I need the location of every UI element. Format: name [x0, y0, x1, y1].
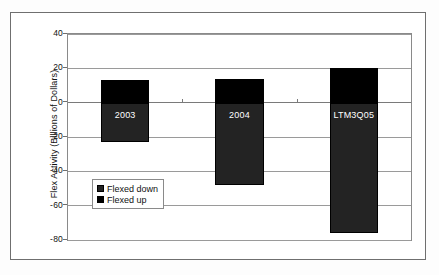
y-tick-mark	[63, 136, 67, 137]
legend-item: Flexed up	[97, 194, 158, 205]
legend-swatch-icon	[97, 196, 104, 203]
bar-segment-flexed-up	[101, 80, 149, 102]
y-axis-tick-labels: 40200-20-40-60-80	[25, 33, 63, 241]
y-tick-mark	[63, 204, 67, 205]
y-tick-label: 20	[29, 63, 63, 71]
plot-area: 20032004LTM3Q05 Flexed downFlexed up	[67, 33, 412, 241]
y-tick-label: -40	[29, 166, 63, 174]
y-tick-mark	[63, 170, 67, 171]
bar-group: LTM3Q05	[330, 34, 378, 240]
bar-group: 2004	[215, 34, 263, 240]
legend-item: Flexed down	[97, 183, 158, 194]
y-tick-mark	[63, 101, 67, 102]
chart-figure: Flex Activity (Billions of Dollars) 4020…	[0, 0, 439, 275]
chart-legend: Flexed downFlexed up	[92, 179, 164, 209]
y-tick-label: -20	[29, 132, 63, 140]
y-tick-mark	[63, 33, 67, 34]
bar-segment-flexed-down	[101, 103, 149, 142]
x-axis-tick	[182, 99, 183, 103]
bar-segment-flexed-down	[215, 103, 263, 185]
y-tick-label: -60	[29, 201, 63, 209]
legend-label: Flexed up	[107, 195, 147, 205]
bar-group: 2003	[101, 34, 149, 240]
y-tick-mark	[63, 67, 67, 68]
bar-segment-flexed-up	[330, 68, 378, 102]
y-tick-mark	[63, 239, 67, 240]
bar-segment-flexed-down	[330, 103, 378, 233]
y-tick-label: -80	[29, 235, 63, 243]
legend-label: Flexed down	[107, 184, 158, 194]
y-tick-label: 40	[29, 29, 63, 37]
legend-swatch-icon	[97, 185, 104, 192]
bar-segment-flexed-up	[215, 79, 263, 103]
x-axis-tick	[297, 99, 298, 103]
y-tick-label: 0	[29, 98, 63, 106]
